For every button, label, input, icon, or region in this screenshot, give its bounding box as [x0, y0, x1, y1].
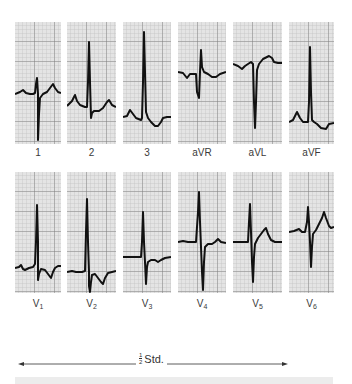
ecg-trace-lead-aVL: [233, 22, 282, 144]
ecg-trace-lead-V5: [233, 172, 282, 293]
ecg-trace-lead-V1: [15, 172, 61, 293]
lead-label-V6: V6: [289, 298, 334, 310]
ecg-panel-lead-V6: [289, 172, 334, 293]
ecg-panel-lead-aVL: [233, 22, 282, 144]
ecg-panel-lead-aVF: [289, 22, 334, 144]
ecg-trace-lead-aVF: [289, 22, 334, 144]
lead-label-V1: V1: [15, 298, 61, 310]
ecg-trace-lead-1: [15, 22, 61, 144]
ecg-trace-lead-V3: [123, 172, 171, 293]
lead-label-aVF: aVF: [289, 147, 334, 158]
lead-label-1: 1: [15, 147, 61, 158]
scale-fraction: 1 2: [139, 352, 142, 365]
lead-label-V4: V4: [178, 298, 226, 310]
ecg-panel-lead-V4: [178, 172, 226, 293]
ecg-panel-lead-aVR: [178, 22, 226, 144]
scale-label: 1 2 Std.: [136, 352, 167, 365]
ecg-trace-lead-3: [123, 22, 171, 144]
ecg-panel-lead-3: [123, 22, 171, 144]
ecg-panel-lead-1: [15, 22, 61, 144]
ecg-panel-lead-2: [67, 22, 116, 144]
ecg-panel-lead-V5: [233, 172, 282, 293]
ecg-panel-lead-V3: [123, 172, 171, 293]
ecg-trace-lead-V6: [289, 172, 334, 293]
lead-label-2: 2: [67, 147, 116, 158]
lead-label-aVL: aVL: [233, 147, 282, 158]
ecg-trace-lead-2: [67, 22, 116, 144]
ecg-trace-lead-aVR: [178, 22, 226, 144]
ecg-trace-lead-V2: [67, 172, 116, 293]
bottom-band: [15, 377, 333, 384]
ecg-panel-lead-V2: [67, 172, 116, 293]
lead-label-3: 3: [123, 147, 171, 158]
ecg-trace-lead-V4: [178, 172, 226, 293]
lead-label-V2: V2: [67, 298, 116, 310]
ecg-panel-lead-V1: [15, 172, 61, 293]
lead-label-V5: V5: [233, 298, 282, 310]
lead-label-aVR: aVR: [178, 147, 226, 158]
lead-label-V3: V3: [123, 298, 171, 310]
